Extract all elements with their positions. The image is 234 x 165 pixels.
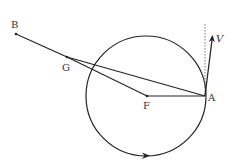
line-b-g bbox=[16, 34, 67, 57]
point-f bbox=[146, 95, 149, 98]
label-a: A bbox=[207, 92, 216, 103]
orbit-diagram: B G F A V bbox=[0, 0, 234, 165]
point-b bbox=[15, 33, 18, 36]
label-b: B bbox=[11, 19, 18, 30]
label-g: G bbox=[62, 62, 70, 73]
label-f: F bbox=[143, 100, 150, 111]
label-v: V bbox=[216, 33, 225, 44]
velocity-vector bbox=[205, 36, 213, 96]
point-g bbox=[66, 56, 69, 59]
